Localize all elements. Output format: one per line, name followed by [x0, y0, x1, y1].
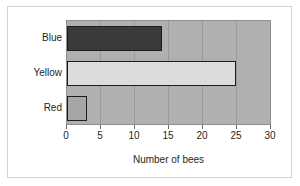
tick-mark-30	[270, 125, 271, 129]
x-tick-label-25: 25	[230, 131, 241, 141]
x-tick-label-15: 15	[162, 131, 173, 141]
y-axis-label-blue: Blue	[0, 33, 62, 43]
bar-blue	[67, 26, 162, 51]
x-tick-label-30: 30	[264, 131, 275, 141]
y-axis-label-red: Red	[0, 103, 62, 113]
x-axis-ticks: 0 5 10 15 20 25 30	[66, 125, 271, 130]
y-axis-category-labels: Blue Yellow Red	[0, 20, 62, 125]
x-tick-label-10: 10	[128, 131, 139, 141]
tick-mark-15	[168, 125, 169, 129]
plot-area	[66, 20, 271, 125]
tick-mark-20	[202, 125, 203, 129]
tick-mark-5	[100, 125, 101, 129]
tick-mark-25	[236, 125, 237, 129]
bar-chart-figure: Blue Yellow Red 0 5 10 15 20 25 30 Numbe…	[0, 0, 300, 186]
x-tick-label-0: 0	[63, 131, 69, 141]
bars-layer	[67, 21, 270, 124]
bar-red	[67, 96, 87, 121]
x-axis-title: Number of bees	[66, 155, 271, 165]
x-tick-label-20: 20	[196, 131, 207, 141]
tick-mark-10	[134, 125, 135, 129]
bar-yellow	[67, 61, 236, 86]
tick-mark-0	[66, 125, 67, 129]
y-axis-label-yellow: Yellow	[0, 68, 62, 78]
x-tick-label-5: 5	[97, 131, 103, 141]
